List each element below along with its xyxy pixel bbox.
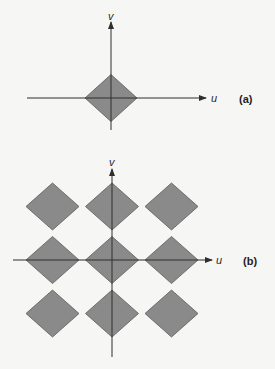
panel-label-b: (b) xyxy=(243,255,257,267)
diamond-shape xyxy=(26,183,79,230)
u-axis-label-a: u xyxy=(211,92,217,104)
diamond-shape xyxy=(145,183,198,230)
panel-b: u v (b) xyxy=(13,156,257,357)
u-axis-label-b: u xyxy=(216,254,222,266)
diamond-shape xyxy=(26,290,79,337)
v-axis-label-b: v xyxy=(109,156,116,168)
panel-a: u v (a) xyxy=(27,10,253,130)
diamond-shape xyxy=(145,290,198,337)
v-axis-label-a: v xyxy=(108,10,115,22)
figure: u v (a) u v (b) xyxy=(0,0,275,369)
panel-label-a: (a) xyxy=(239,93,253,105)
